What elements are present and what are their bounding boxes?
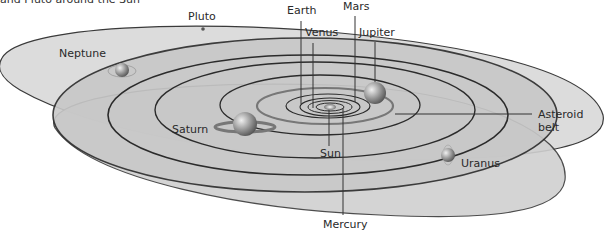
label-earth: Earth (287, 5, 317, 17)
label-jupiter: Jupiter (359, 27, 395, 39)
label-mercury: Mercury (323, 219, 368, 231)
solar-system-diagram (0, 0, 607, 245)
label-asteroid-belt-line2: belt (538, 121, 559, 134)
jupiter (364, 82, 386, 104)
label-venus: Venus (305, 27, 338, 39)
label-neptune: Neptune (59, 48, 106, 60)
label-sun: Sun (320, 148, 341, 160)
label-asteroid-belt-line1: Asteroid (538, 108, 583, 121)
sun (324, 104, 336, 110)
pluto (201, 27, 205, 31)
label-saturn: Saturn (172, 124, 208, 136)
label-uranus: Uranus (461, 158, 500, 170)
label-asteroid-belt: Asteroid belt (538, 108, 583, 134)
label-mars: Mars (343, 1, 370, 13)
label-pluto: Pluto (188, 11, 216, 23)
